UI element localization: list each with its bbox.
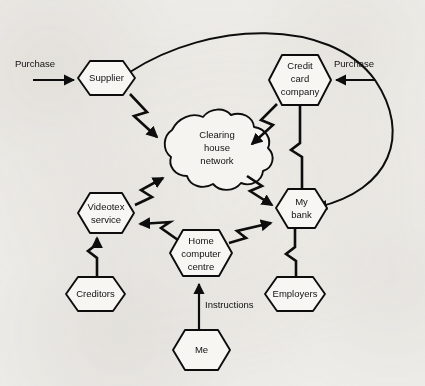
credit-card-company-label-line1: Credit	[287, 60, 313, 71]
home-computer-centre-label-line2: computer	[181, 248, 221, 259]
node-videotex-service[interactable]: Videotex service	[78, 193, 134, 233]
my-bank-label-line1: My	[295, 196, 308, 207]
edge-supplier-to-clearing-house	[130, 94, 157, 137]
diagram-canvas: Supplier Purchase Credit card company Pu…	[0, 0, 425, 386]
edge-purchase-to-credit-card-company: Purchase	[334, 58, 375, 80]
edge-me-to-home-computer-centre: Instructions	[199, 284, 254, 330]
node-credit-card-company[interactable]: Credit card company	[269, 55, 331, 105]
lightning-videotex-cloud	[135, 178, 163, 205]
edge-credit-card-company-to-my-bank	[291, 106, 302, 188]
node-clearing-house-network[interactable]: Clearing house network	[165, 110, 273, 190]
edge-creditors-to-videotex	[88, 238, 97, 277]
creditors-label: Creditors	[76, 288, 115, 299]
lightning-mybank-employers	[286, 229, 296, 277]
supplier-label: Supplier	[89, 72, 124, 83]
lightning-home-videotex	[140, 222, 178, 240]
me-label: Me	[195, 344, 208, 355]
edge-purchase-to-supplier: Purchase	[15, 58, 74, 80]
clearing-house-label-line3: network	[200, 155, 234, 166]
clearing-house-label-line2: house	[204, 142, 230, 153]
lightning-supplier-cloud	[130, 94, 157, 137]
videotex-service-label-line1: Videotex	[88, 201, 125, 212]
home-computer-centre-label-line1: Home	[188, 235, 213, 246]
node-creditors[interactable]: Creditors	[66, 277, 125, 311]
clearing-house-label-line1: Clearing	[199, 129, 234, 140]
network-diagram: Supplier Purchase Credit card company Pu…	[0, 0, 425, 386]
edge-home-computer-centre-to-videotex	[140, 222, 178, 240]
edge-home-computer-centre-to-my-bank	[229, 223, 271, 243]
node-supplier[interactable]: Supplier	[78, 61, 135, 95]
videotex-service-label-line2: service	[91, 214, 121, 225]
my-bank-label-line2: bank	[291, 209, 312, 220]
node-employers[interactable]: Employers	[265, 277, 325, 311]
node-me[interactable]: Me	[173, 330, 230, 370]
node-home-computer-centre[interactable]: Home computer centre	[170, 230, 232, 276]
purchase-right-label: Purchase	[334, 58, 374, 69]
edge-my-bank-to-employers	[286, 229, 296, 277]
credit-card-company-label-line2: card	[291, 73, 309, 84]
employers-label: Employers	[273, 288, 318, 299]
edge-videotex-to-clearing-house	[135, 178, 163, 205]
lightning-creditcard-mybank	[291, 106, 302, 188]
instructions-label: Instructions	[205, 299, 254, 310]
purchase-left-label: Purchase	[15, 58, 55, 69]
lightning-creditors-videotex	[88, 238, 97, 277]
lightning-home-mybank	[229, 223, 271, 243]
node-my-bank[interactable]: My bank	[276, 189, 327, 228]
home-computer-centre-label-line3: centre	[188, 261, 214, 272]
credit-card-company-label-line3: company	[281, 86, 320, 97]
